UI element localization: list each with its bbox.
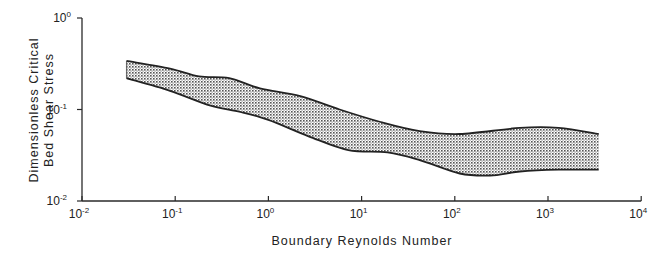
y-tick-label: 100 bbox=[53, 10, 71, 25]
x-tick-label: 101 bbox=[350, 206, 368, 221]
chart: 10-210-1100 10-210-1100101102103104 Dime… bbox=[0, 0, 667, 253]
x-tick-label: 100 bbox=[256, 206, 274, 221]
y-tick-label: 10-2 bbox=[47, 193, 68, 208]
y-axis-title-line-1: Dimensionless Critical bbox=[27, 38, 41, 183]
x-tick-label: 10-1 bbox=[162, 206, 183, 221]
x-tick-label: 10-2 bbox=[69, 206, 90, 221]
x-tick-label: 104 bbox=[629, 206, 647, 221]
x-axis: 10-210-1100101102103104 bbox=[69, 196, 648, 221]
y-axis-title-line-2: Bed Shear Stress bbox=[42, 53, 56, 167]
x-tick-label: 102 bbox=[443, 206, 461, 221]
y-axis-title: Dimensionless Critical Bed Shear Stress bbox=[27, 38, 56, 183]
shear-stress-band bbox=[127, 61, 599, 176]
x-tick-label: 103 bbox=[536, 206, 554, 221]
x-axis-title: Boundary Reynolds Number bbox=[271, 234, 452, 248]
plot-area bbox=[126, 61, 598, 176]
